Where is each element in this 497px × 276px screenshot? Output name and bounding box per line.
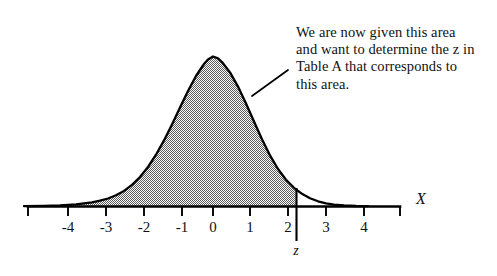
- annotation-leader-line: [252, 70, 288, 96]
- tick-label-4: 4: [360, 219, 368, 236]
- shaded-area: [28, 56, 296, 206]
- tick-label-1: 1: [246, 219, 254, 236]
- tick-label-3: 3: [322, 219, 330, 236]
- annotation-line-2: and want to determine the z in: [296, 41, 492, 58]
- annotation-line-4: this area.: [296, 76, 492, 93]
- tick-label-minus-1: -1: [176, 219, 189, 236]
- annotation-line-3: Table A that corresponds to: [296, 58, 492, 75]
- tick-label-minus-4: -4: [62, 219, 75, 236]
- annotation-line-1: We are now given this area: [296, 24, 492, 41]
- x-axis-label: X: [416, 190, 426, 208]
- annotation-text: We are now given this area and want to d…: [296, 24, 492, 93]
- z-marker-label: z: [293, 243, 298, 259]
- figure-canvas: -4 -3 -2 -1 0 1 2 3 4 X z We are now giv…: [0, 0, 497, 276]
- tick-label-0: 0: [209, 219, 217, 236]
- tick-label-minus-2: -2: [138, 219, 151, 236]
- tick-label-minus-3: -3: [100, 219, 113, 236]
- tick-label-2: 2: [284, 219, 292, 236]
